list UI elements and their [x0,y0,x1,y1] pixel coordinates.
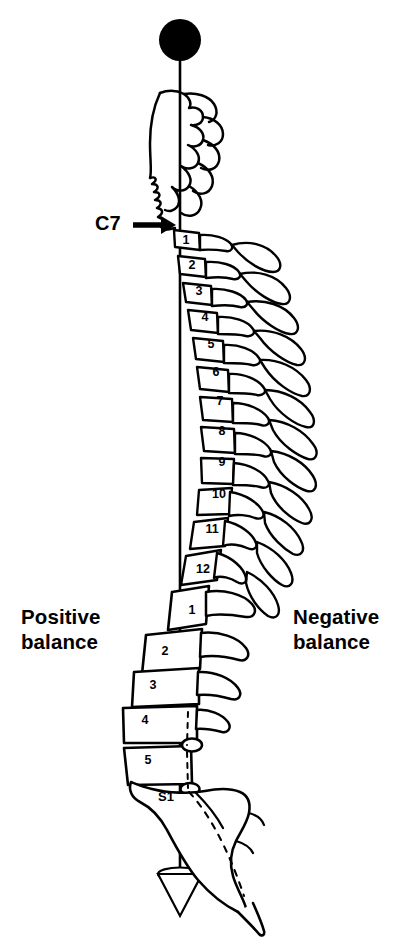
lumbar-vertebral-bodies [123,586,209,785]
positive-balance-label: Positive balance [21,604,100,654]
vertebra-label-lumbar-5: 5 [145,753,152,767]
cervical-spine-outline [150,91,223,230]
vertebra-label-lumbar-4: 4 [142,713,149,727]
c7-arrow-icon [133,216,176,234]
vertebra-label-thoracic-9: 9 [219,455,226,469]
vertebra-label-thoracic-10: 10 [212,487,226,501]
spine-illustration-svg [0,0,415,948]
vertebra-label-lumbar-2: 2 [162,644,169,658]
negative-balance-label: Negative balance [293,604,379,654]
c7-label: C7 [95,212,121,235]
sacrum-coccyx-outline [130,782,264,935]
vertebra-label-thoracic-2: 2 [189,258,196,272]
vertebra-label-thoracic-11: 11 [205,522,218,536]
vertebra-label-thoracic-12: 12 [196,562,210,576]
vertebra-label-thoracic-8: 8 [219,424,226,438]
plumb-line-top-marker-icon [159,19,201,61]
vertebra-label-thoracic-6: 6 [213,365,220,379]
vertebra-label-thoracic-5: 5 [208,337,215,351]
vertebra-label-thoracic-1: 1 [183,233,190,247]
spine-sagittal-balance-figure: Positive balance Negative balance C7 123… [0,0,415,948]
vertebra-label-thoracic-7: 7 [217,394,224,408]
vertebra-label-sacral-S1: S1 [158,789,174,804]
vertebra-label-thoracic-3: 3 [196,284,203,298]
vertebra-label-lumbar-1: 1 [189,603,196,617]
vertebra-label-thoracic-4: 4 [202,310,209,324]
vertebra-label-lumbar-3: 3 [150,678,157,692]
